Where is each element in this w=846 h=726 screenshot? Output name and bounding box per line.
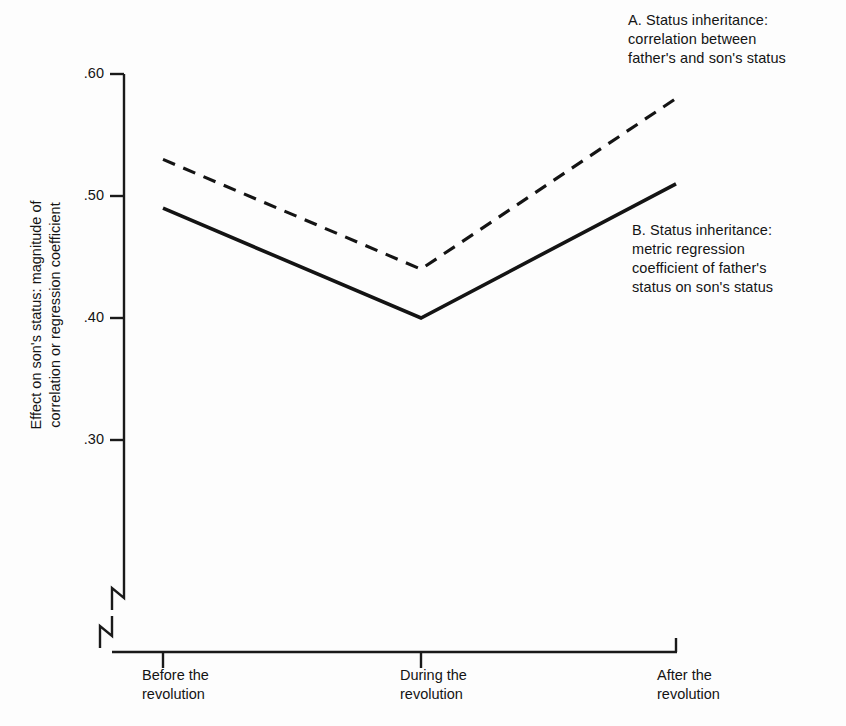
series-b-solid-line: [163, 184, 676, 318]
x-axis-break-symbol: [100, 616, 112, 648]
y-axis-title: Effect on son's status: magnitude of cor…: [27, 150, 67, 480]
y-tick-label-060: .60: [58, 65, 104, 81]
x-axis-label-after: After the revolution: [657, 666, 720, 704]
y-axis-break-symbol: [112, 578, 124, 610]
annotation-series-a: A. Status inheritance: correlation betwe…: [628, 11, 843, 68]
x-axis-label-during: During the revolution: [400, 666, 467, 704]
y-axis-title-text: Effect on son's status: magnitude of cor…: [27, 150, 65, 480]
chart-figure: .60 .50 .40 .30 Effect on son's status: …: [0, 0, 846, 726]
x-axis-label-before: Before the revolution: [142, 666, 209, 704]
line-chart-canvas: [0, 0, 846, 726]
series-a-dashed-line: [163, 98, 676, 269]
annotation-series-b: B. Status inheritance: metric regression…: [632, 221, 837, 297]
